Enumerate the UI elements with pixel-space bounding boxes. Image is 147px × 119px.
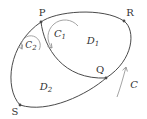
region-label-d1: D1	[87, 36, 100, 48]
point-label-p: P	[39, 8, 46, 18]
point-label-q: Q	[96, 65, 104, 75]
region-label-d1-base: D	[87, 35, 95, 46]
point-q-dot	[105, 77, 108, 80]
region-label-d2-subscript: 2	[48, 86, 52, 94]
point-r-dot	[123, 20, 126, 23]
curve-label-c1: C1	[54, 29, 66, 41]
c-orientation-arrow	[117, 67, 126, 97]
outer-boundary-curve	[11, 12, 131, 107]
region-label-d1-subscript: 1	[95, 40, 99, 48]
curve-label-c-base: C	[130, 79, 138, 90]
curve-label-c2: C2	[25, 41, 36, 52]
curve-label-c2-base: C	[25, 40, 32, 50]
curve-label-c: C	[130, 80, 138, 90]
curve-label-c1-base: C	[54, 28, 62, 39]
point-label-r: R	[126, 8, 134, 18]
region-label-d2-base: D	[40, 81, 48, 92]
point-p-dot	[40, 21, 43, 24]
curve-label-c1-subscript: 1	[62, 33, 66, 41]
point-label-s: S	[12, 107, 19, 117]
diagram-canvas	[0, 0, 147, 119]
curve-label-c2-subscript: 2	[32, 44, 36, 52]
point-s-dot	[19, 104, 22, 107]
green-theorem-region-diagram: P R Q S C1 C2 C D1 D2	[0, 0, 147, 119]
region-label-d2: D2	[40, 82, 53, 94]
